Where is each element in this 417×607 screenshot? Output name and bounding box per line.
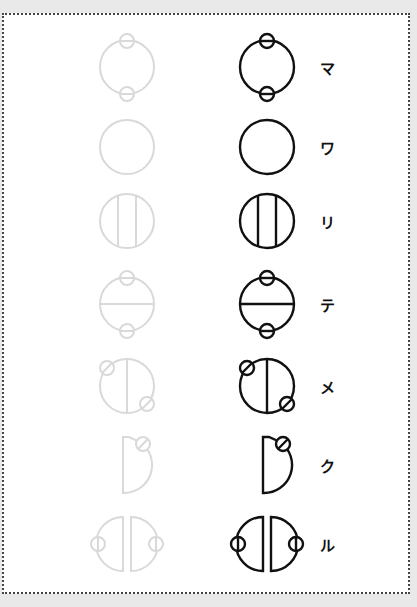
shape-ri bbox=[240, 194, 294, 248]
shape-te bbox=[240, 271, 294, 338]
main-column bbox=[231, 34, 303, 571]
ghost-shape-ri bbox=[100, 194, 154, 248]
kana-label: テ bbox=[320, 294, 335, 315]
ghost-shape-wa bbox=[100, 120, 154, 174]
ghost-shape-ku bbox=[123, 437, 152, 493]
kana-label: メ bbox=[320, 376, 335, 397]
kana-label: マ bbox=[320, 57, 335, 78]
ghost-shape-ma bbox=[100, 34, 154, 101]
ghost-column bbox=[91, 34, 163, 571]
shape-ma bbox=[240, 34, 294, 101]
kana-label: ク bbox=[320, 455, 335, 476]
shape-me bbox=[240, 359, 294, 413]
kana-label: リ bbox=[320, 211, 335, 232]
shape-wa bbox=[240, 120, 294, 174]
kana-label: ワ bbox=[320, 137, 335, 158]
shape-art bbox=[0, 0, 417, 607]
shape-ku bbox=[263, 437, 292, 493]
ghost-shape-me bbox=[100, 359, 154, 413]
ghost-shape-te bbox=[100, 271, 154, 338]
ghost-shape-ru bbox=[91, 517, 163, 571]
kana-label: ル bbox=[320, 534, 335, 555]
shape-ru bbox=[231, 517, 303, 571]
